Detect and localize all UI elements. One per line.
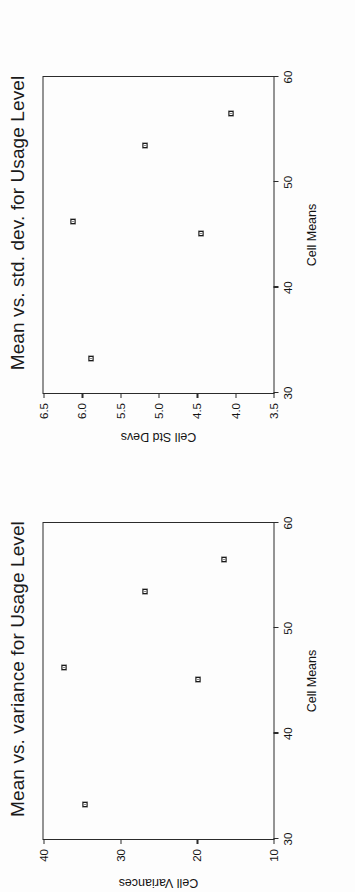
y-tick-mark — [235, 393, 236, 398]
y-tick-label: 3.5 — [267, 403, 279, 419]
plot-area-std-dev: 304050603.54.04.55.05.56.06.5 — [42, 76, 274, 394]
y-tick-label: 6.0 — [75, 403, 87, 419]
y-tick-label: 20 — [190, 849, 202, 862]
x-tick-mark — [273, 181, 278, 182]
x-tick-mark — [273, 522, 278, 523]
x-tick-label: 50 — [281, 176, 293, 189]
y-tick-mark — [81, 393, 82, 398]
x-tick-label: 50 — [281, 622, 293, 635]
figure-variance: Mean vs. variance for Usage Level 304050… — [0, 446, 355, 892]
x-tick-label: 40 — [281, 727, 293, 740]
y-tick-mark — [120, 839, 121, 844]
data-point — [142, 589, 147, 594]
data-point — [82, 802, 87, 807]
x-axis-title-variance: Cell Means — [304, 522, 318, 840]
y-tick-mark — [158, 393, 159, 398]
y-tick-label: 5.0 — [152, 403, 164, 419]
x-tick-label: 60 — [281, 517, 293, 530]
chart-title-std-dev: Mean vs. std. dev. for Usage Level — [6, 0, 28, 446]
data-point — [195, 677, 200, 682]
figure-std-dev: Mean vs. std. dev. for Usage Level 30405… — [0, 0, 355, 446]
y-tick-label: 10 — [267, 849, 279, 862]
rotated-canvas-variance: Mean vs. variance for Usage Level 304050… — [0, 446, 355, 892]
y-tick-label: 30 — [114, 849, 126, 862]
data-point — [70, 219, 75, 224]
x-tick-mark — [273, 286, 278, 287]
x-tick-mark — [273, 76, 278, 77]
y-tick-mark — [273, 839, 274, 844]
figure-page: Mean vs. std. dev. for Usage Level 30405… — [0, 0, 355, 892]
y-axis-title-label-variance: Cell Variances — [118, 876, 198, 890]
y-axis-title-std-dev: Cell Std Devs — [42, 428, 274, 446]
x-tick-label: 30 — [281, 387, 293, 400]
data-point — [221, 557, 226, 562]
x-axis-title-std-dev: Cell Means — [304, 76, 318, 394]
data-point — [88, 356, 93, 361]
rotated-canvas-std-dev: Mean vs. std. dev. for Usage Level 30405… — [0, 0, 355, 446]
data-point — [61, 665, 66, 670]
y-tick-mark — [273, 393, 274, 398]
x-tick-label: 30 — [281, 833, 293, 846]
data-point — [228, 111, 233, 116]
data-point — [198, 231, 203, 236]
x-tick-label: 40 — [281, 281, 293, 294]
plot-area-variance: 3040506010203040 — [42, 522, 274, 840]
y-tick-label: 5.5 — [114, 403, 126, 419]
y-tick-mark — [120, 393, 121, 398]
y-axis-title-label-std-dev: Cell Std Devs — [120, 430, 196, 444]
y-tick-label: 40 — [37, 849, 49, 862]
y-tick-mark — [43, 393, 44, 398]
chart-title-variance: Mean vs. variance for Usage Level — [6, 446, 28, 892]
y-tick-mark — [196, 393, 197, 398]
x-tick-label: 60 — [281, 71, 293, 84]
x-tick-mark — [273, 732, 278, 733]
y-tick-label: 4.0 — [229, 403, 241, 419]
y-tick-label: 6.5 — [37, 403, 49, 419]
x-tick-mark — [273, 627, 278, 628]
y-axis-title-variance: Cell Variances — [42, 874, 274, 892]
y-tick-label: 4.5 — [190, 403, 202, 419]
y-tick-mark — [43, 839, 44, 844]
y-tick-mark — [196, 839, 197, 844]
data-point — [142, 143, 147, 148]
